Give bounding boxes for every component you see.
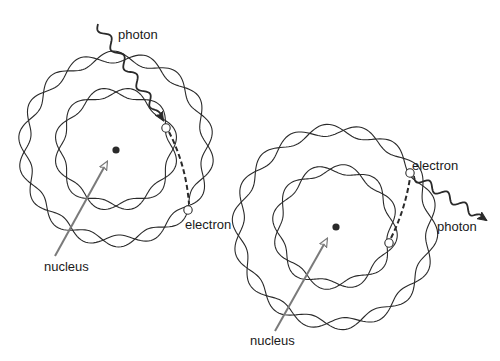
photon-label: photon — [118, 28, 158, 41]
nucleus-label: nucleus — [44, 260, 89, 273]
photon-label: photon — [437, 220, 477, 233]
electron-label: electron — [412, 159, 458, 172]
electron-initial-icon — [162, 124, 170, 132]
transition-dashed-path — [391, 178, 410, 238]
nucleus-label: nucleus — [250, 334, 295, 347]
nucleus-pointer-arrow — [275, 239, 327, 331]
electron-label: electron — [185, 218, 231, 231]
nucleus-icon — [332, 223, 339, 230]
atom-absorption — [19, 24, 213, 256]
electron-initial-icon — [385, 239, 393, 247]
electron-final-icon — [184, 206, 192, 214]
emitted-photon-wave — [414, 176, 486, 220]
nucleus-icon — [112, 146, 119, 153]
transition-dashed-path — [169, 132, 189, 204]
diagram-canvas: photon electron nucleus electron photon … — [0, 0, 500, 361]
